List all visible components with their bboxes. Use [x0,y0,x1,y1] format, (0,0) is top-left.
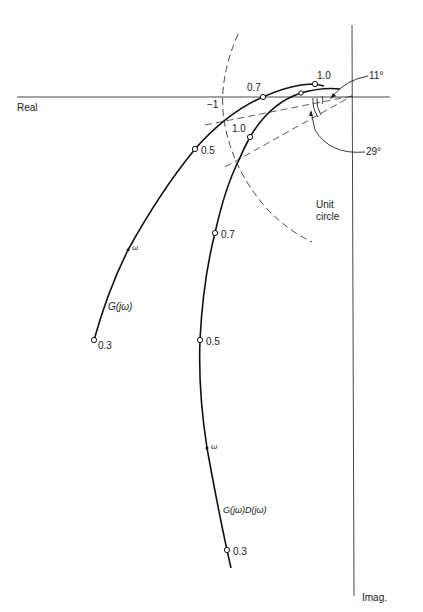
leader-11 [332,76,368,97]
g-omega-tick [127,249,130,252]
nyquist-diagram [0,0,423,612]
g-point-0.5 [192,146,197,151]
real-axis-label: Real [17,103,38,113]
gd-omega-tick [206,447,209,450]
g-label-1.0: 1.0 [317,71,331,81]
gd-point-top [299,91,303,95]
gd-label-1.0: 1.0 [232,124,246,134]
unit-circle-label-1: Unit [316,200,334,210]
imag-axis-label: Imag. [362,593,387,603]
g-label-0.3: 0.3 [98,341,112,351]
gd-point-0.7 [212,230,217,235]
gd-point-0.3 [224,547,229,552]
gd-curve [200,89,340,569]
gd-label-0.7: 0.7 [221,230,235,240]
g-point-1.0 [312,81,317,86]
angle-arc-29b [317,98,321,115]
angle-label-29: 29° [366,147,381,157]
gd-point-0.5 [197,337,202,342]
g-point-0.7 [260,94,265,99]
g-label-0.5: 0.5 [201,146,215,156]
unit-circle-label-2: circle [316,212,339,222]
unit-circle-arc [223,34,312,242]
g-label-0.7: 0.7 [247,83,261,93]
gd-curve-label: G(jω)D(jω) [223,506,267,515]
imag-axis [352,25,354,596]
gd-omega-label: ω [211,443,217,451]
gd-label-0.3: 0.3 [233,547,247,557]
leader-29 [311,112,365,152]
g-curve-label: G(jω) [108,302,132,312]
gd-point-1.0 [247,134,252,139]
arrowhead-29 [309,110,313,116]
g-omega-label: ω [132,244,138,252]
angle-label-11: 11° [369,71,383,81]
gd-label-0.5: 0.5 [206,337,220,347]
critical-point-label: −1 [207,100,218,110]
g-point-0.3 [91,337,96,342]
angle-arc-11 [322,96,323,104]
phase-line-g [205,96,352,125]
